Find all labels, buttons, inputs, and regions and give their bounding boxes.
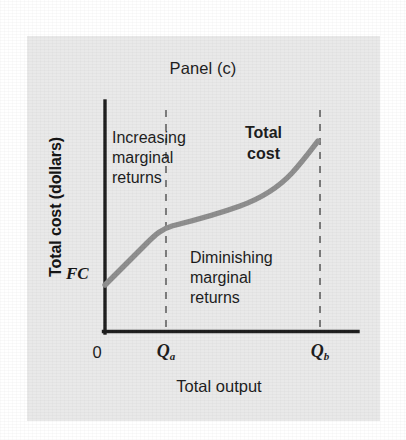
y-axis-title: Total cost (dollars) — [47, 97, 65, 317]
x-tick-qb-subscript: b — [324, 350, 330, 362]
annotation-diminishing-line-1: Diminishing — [190, 248, 273, 268]
x-tick-qa-base: Q — [157, 341, 170, 361]
x-tick-label-qb: Qb — [304, 341, 336, 362]
annotation-diminishing-line-2: marginal — [190, 268, 273, 288]
annotation-increasing-line-1: Increasing — [112, 128, 186, 148]
annotation-increasing-line-2: marginal — [112, 148, 186, 168]
annotation-increasing-marginal-returns: Increasing marginal returns — [112, 128, 186, 188]
fixed-cost-label: FC — [66, 264, 89, 284]
annotation-diminishing-marginal-returns: Diminishing marginal returns — [190, 248, 273, 308]
annotation-increasing-line-3: returns — [112, 168, 186, 188]
x-tick-label-zero: 0 — [86, 343, 108, 362]
annotation-diminishing-line-3: returns — [190, 288, 273, 308]
curve-label-line-2: cost — [245, 143, 282, 164]
x-tick-label-qa: Qa — [150, 341, 182, 362]
curve-label-total-cost: Total cost — [245, 122, 282, 164]
curve-label-line-1: Total — [245, 122, 282, 143]
x-tick-qb-base: Q — [311, 341, 324, 361]
x-tick-qa-subscript: a — [170, 350, 176, 362]
x-axis-title: Total output — [103, 377, 335, 396]
chart-page: Panel (c) Total cost (dollars) Total out… — [0, 0, 406, 440]
